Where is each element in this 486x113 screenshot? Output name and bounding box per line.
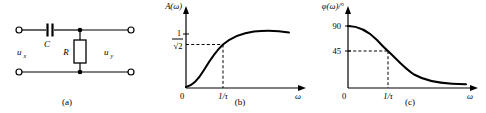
terminal-input-bottom	[16, 69, 22, 75]
terminal-output-bottom	[128, 69, 134, 75]
input-voltage-label: u x	[17, 47, 27, 59]
panel-b-xtick-label: 1/τ	[218, 91, 229, 101]
output-voltage-subscript: y	[110, 53, 114, 59]
panel-c-y-axis-arrow	[345, 6, 351, 14]
panel-a-caption: (a)	[62, 97, 72, 107]
panel-b-x-axis-label: ω	[295, 91, 301, 101]
resistor-label: R	[62, 47, 69, 57]
panel-a-circuit: C R u x u y (a)	[16, 24, 134, 108]
panel-b-caption: (b)	[235, 97, 246, 107]
panel-c-origin-label: 0	[342, 91, 346, 101]
resistor-body	[74, 40, 86, 63]
panel-b-ytick-1-label: 1	[177, 29, 181, 38]
panel-c-phase-curve	[348, 26, 466, 84]
terminal-output-top	[128, 27, 134, 33]
panel-b-amplitude-curve	[186, 31, 289, 87]
panel-c-chart: φ(ω)/° ω 0 90 45 1/τ (c)	[322, 1, 478, 107]
input-voltage-subscript: x	[23, 53, 27, 59]
panel-b-origin-label: 0	[180, 91, 184, 101]
figure-container: C R u x u y (a) A(ω) ω 0 1	[0, 0, 486, 113]
panel-c-ytick-45-label: 45	[333, 46, 342, 56]
panel-b-chart: A(ω) ω 0 1 √2 1/τ (b)	[164, 1, 306, 107]
panel-c-xtick-label: 1/τ	[383, 91, 394, 101]
junction-node-top	[78, 28, 83, 33]
panel-b-y-axis-label: A(ω)	[164, 1, 182, 11]
capacitor-label: C	[44, 39, 51, 49]
panel-b-ytick-1-over-sqrt2: 1 √2	[172, 29, 183, 51]
panel-c-y-axis-label: φ(ω)/°	[322, 1, 345, 11]
output-voltage-symbol: u	[104, 47, 109, 57]
terminal-input-top	[16, 27, 22, 33]
input-voltage-symbol: u	[17, 47, 22, 57]
panel-c-ytick-90-label: 90	[333, 21, 342, 31]
panel-c-caption: (c)	[405, 97, 415, 107]
panel-b-ytick-sqrt2-label: √2	[174, 41, 183, 51]
junction-node-bottom	[78, 70, 83, 75]
panel-c-x-axis-label: ω	[467, 91, 473, 101]
output-voltage-label: u y	[104, 47, 114, 59]
panel-b-y-axis-arrow	[183, 6, 189, 14]
